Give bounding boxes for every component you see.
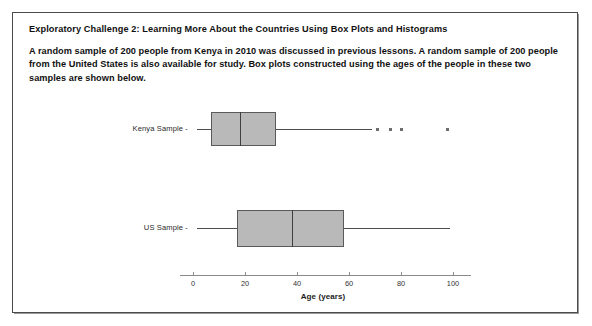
category-label-kenya-sample: Kenya Sample - [93, 124, 188, 133]
x-axis-tick [245, 272, 246, 275]
x-axis-tick [297, 272, 298, 275]
x-axis-tick [349, 272, 350, 275]
outlier-marker [376, 128, 379, 131]
x-axis-tick-label: 20 [230, 279, 260, 288]
box-iqr [237, 210, 344, 247]
x-axis-line [180, 275, 471, 276]
x-axis-tick-label: 60 [334, 279, 364, 288]
outlier-marker [389, 128, 392, 131]
median-line [240, 112, 241, 146]
outlier-marker [446, 128, 449, 131]
x-axis-tick-label: 0 [178, 279, 208, 288]
median-line [292, 210, 293, 247]
whisker-right [344, 228, 451, 229]
x-axis-tick [193, 272, 194, 275]
box-iqr [211, 112, 276, 146]
whisker-left [197, 228, 237, 229]
x-axis-tick [453, 272, 454, 275]
page-root: Exploratory Challenge 2: Learning More A… [0, 0, 592, 326]
outlier-marker [400, 128, 403, 131]
document-frame: Exploratory Challenge 2: Learning More A… [12, 12, 578, 313]
x-axis-tick-label: 80 [386, 279, 416, 288]
box-plot-chart: Kenya Sample -US Sample -020406080100Age… [13, 13, 579, 314]
whisker-right [276, 129, 372, 130]
x-axis-tick-label: 100 [438, 279, 468, 288]
x-axis-tick-label: 40 [282, 279, 312, 288]
x-axis-tick [401, 272, 402, 275]
x-axis-title: Age (years) [193, 292, 453, 301]
whisker-left [197, 129, 211, 130]
category-label-us-sample: US Sample - [93, 223, 188, 232]
